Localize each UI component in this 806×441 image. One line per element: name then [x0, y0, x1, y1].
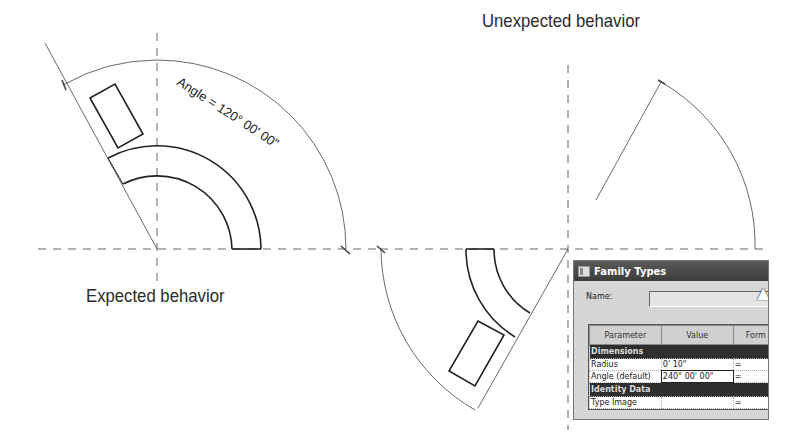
caption-expected: Expected behavior [86, 285, 225, 307]
column-header-parameter[interactable]: Parameter [590, 326, 662, 345]
caption-unexpected: Unexpected behavior [482, 10, 640, 32]
param-value[interactable] [661, 397, 733, 409]
table-row: Radius 0' 10" = [590, 359, 770, 371]
angle-label: Angle = 120° 00' 00" [174, 74, 282, 151]
right-arc-geometry [449, 249, 530, 386]
dialog-title: Family Types [594, 266, 666, 277]
param-name: Type Image [590, 397, 662, 409]
param-value[interactable]: 0' 10" [661, 359, 733, 371]
column-header-value[interactable]: Value [661, 326, 733, 345]
group-dimensions[interactable]: Dimensions [590, 345, 770, 359]
param-formula[interactable]: = [733, 397, 769, 409]
column-header-formula[interactable]: Form [733, 326, 769, 345]
parameters-grid: Parameter Value Form Dimensions Radius 0… [588, 324, 769, 410]
left-angle-dimension [45, 43, 350, 254]
dialog-titlebar[interactable]: Family Types [574, 261, 768, 281]
family-types-dialog: Family Types Name: ▲ Parameter Value For… [573, 260, 769, 420]
name-dropdown[interactable] [649, 291, 769, 307]
table-row: Angle (default) 240° 00' 00" = [590, 371, 770, 383]
param-formula[interactable]: = [733, 371, 769, 383]
mouse-pointer-icon: ▲ [757, 283, 769, 302]
param-value-editing[interactable]: 240° 00' 00" [661, 371, 733, 383]
name-label: Name: [586, 292, 612, 301]
group-identity-data[interactable]: Identity Data [590, 383, 770, 397]
dialog-app-icon [578, 266, 590, 277]
table-row: Type Image = [590, 397, 770, 409]
param-formula[interactable]: = [733, 359, 769, 371]
param-name: Angle (default) [590, 371, 662, 383]
param-name: Radius [590, 359, 662, 371]
